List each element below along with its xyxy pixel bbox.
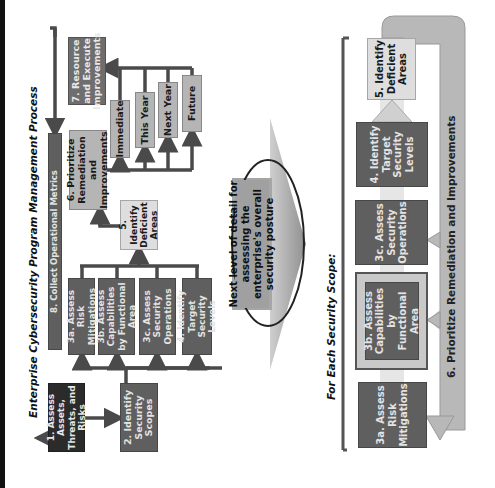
step-3b-capabilities: 3b. Assess Capabilities by Functional Ar… <box>98 278 135 355</box>
priority-immediate: Immediate <box>110 100 130 158</box>
priority-this-year: This Year <box>135 92 155 148</box>
step-1-assess-assets: 1. Assess Assets, Threats, and Risks <box>48 383 85 452</box>
priority-next-year: Next Year <box>158 82 178 138</box>
scope-step-5-label: 5. Identify Deficient Areas <box>374 39 409 99</box>
transition-label: Next level of detail for assessing the e… <box>235 180 269 308</box>
step-1-label: 1. Assess Assets, Threats, and Risks <box>46 384 87 451</box>
scope-step-3a: 3a. Assess Risk Mitigations <box>358 382 427 448</box>
priority-next-year-label: Next Year <box>163 84 174 136</box>
step-2-label: 2. Identify Security Scopes <box>123 384 156 451</box>
scope-step-5: 5. Identify Deficient Areas <box>367 38 416 100</box>
step-3c-label: 3c. Assess Security Operations <box>142 279 173 354</box>
step-5-deficient-areas: 5. Identify Deficient Areas <box>120 200 158 250</box>
step-8-collect-metrics: 8. Collect Operational Metrics <box>48 133 62 350</box>
priority-immediate-label: Immediate <box>115 100 126 157</box>
step-3b-label: 3b. Assess Capabilities by Functional Ar… <box>96 279 137 354</box>
step-6-label: 6. Prioritize Remediation and Improvemen… <box>66 131 110 209</box>
scope-step-3c: 3c. Assess Security Operations <box>355 200 428 265</box>
scope-step-3c-label: 3c. Assess Security Operations <box>374 201 409 264</box>
step-7-label: 7. Resource and Execute Improvements <box>71 32 104 109</box>
step-5-label: 5. Identify Deficient Areas <box>118 201 159 249</box>
step-2-identify-scopes: 2. Identify Security Scopes <box>120 383 158 452</box>
rotated-diagram-canvas: Enterprise Cybersecurity Program Managem… <box>0 0 495 488</box>
scope-step-4-label: 4. Identify Target Security Levels <box>369 123 415 186</box>
scope-step-3a-label: 3a. Assess Risk Mitigations <box>375 383 410 447</box>
priority-future-label: Future <box>187 86 198 121</box>
step-6-prioritize: 6. Prioritize Remediation and Improvemen… <box>69 130 107 210</box>
step-3c-security-operations: 3c. Assess Security Operations <box>139 278 176 355</box>
scope-step-3b: 3b. Assess Capabilities by Functional Ar… <box>365 282 419 360</box>
step-3a-risk-mitigations: 3a. Assess Risk Mitigations <box>68 278 95 355</box>
step-3a-label: 3a. Assess Risk Mitigations <box>66 279 97 354</box>
transition-label-text: Next level of detail for assessing the e… <box>228 180 276 308</box>
process-title: Enterprise Cybersecurity Program Managem… <box>27 86 39 418</box>
priority-future: Future <box>182 75 202 132</box>
feedback-band-label: 6. Prioritize Remediation and Improvemen… <box>445 115 457 378</box>
step-4-label: 4. Identify Target Security Levels <box>176 279 217 354</box>
scope-title: For Each Security Scope: <box>325 253 337 400</box>
scope-step-4: 4. Identify Target Security Levels <box>356 122 428 187</box>
scope-step-3b-label: 3b. Assess Capabilities by Functional Ar… <box>363 283 421 359</box>
step-7-resource-execute: 7. Resource and Execute Improvements <box>68 37 106 105</box>
step-8-label: 8. Collect Operational Metrics <box>50 170 60 313</box>
scope-step-3b-frame: 3b. Assess Capabilities by Functional Ar… <box>355 272 428 370</box>
step-4-target-levels: 4. Identify Target Security Levels <box>182 278 212 355</box>
priority-this-year-label: This Year <box>140 96 151 145</box>
